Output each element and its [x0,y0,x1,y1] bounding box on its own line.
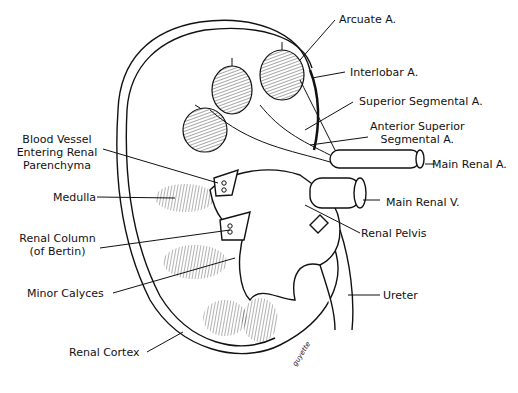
label-superior-segmental-artery: Superior Segmental A. [359,95,483,108]
label-blood-vessel: Blood Vessel Entering Renal Parenchyma [12,133,102,172]
main-renal-artery [330,150,420,168]
label-line: Renal Column [15,232,100,245]
label-ureter: Ureter [383,289,418,302]
label-minor-calyces: Minor Calyces [27,287,104,300]
label-line: (of Bertin) [15,245,100,258]
label-main-renal-artery: Main Renal A. [432,158,507,171]
pyramid-3 [183,108,227,152]
main-renal-vein [310,178,360,208]
label-renal-column: Renal Column (of Bertin) [15,232,100,258]
ureter [320,265,335,330]
label-line: Blood Vessel [12,133,102,146]
pyramid-1 [212,66,252,114]
pyramid-2 [260,50,304,100]
label-main-renal-vein: Main Renal V. [386,196,460,209]
label-arcuate-artery: Arcuate A. [339,13,396,26]
label-line: Entering Renal [12,146,102,159]
label-interlobar-artery: Interlobar A. [350,66,418,79]
label-renal-pelvis: Renal Pelvis [361,227,427,240]
label-line: Parenchyma [12,159,102,172]
label-medulla: Medulla [53,191,96,204]
label-line: Anterior Superior [370,120,464,133]
label-line: Segmental A. [370,133,464,146]
label-anterior-superior-segmental-artery: Anterior Superior Segmental A. [370,120,464,146]
label-renal-cortex: Renal Cortex [69,346,140,359]
